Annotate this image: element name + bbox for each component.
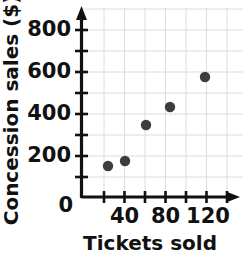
scatter-plot-figure: 800 600 400 200 0 40 80 120 Concession s… xyxy=(0,0,243,256)
data-point xyxy=(165,102,175,112)
y-axis-arrow-icon xyxy=(76,6,87,20)
data-point xyxy=(200,72,210,82)
y-tick-label-600: 600 xyxy=(27,59,71,83)
y-tick-label-400: 400 xyxy=(27,101,71,125)
x-tick-label-80: 80 xyxy=(151,204,180,228)
y-tick-label-200: 200 xyxy=(27,143,71,167)
x-axis-title: Tickets sold xyxy=(83,231,217,255)
origin-label: 0 xyxy=(58,193,73,217)
chart-canvas: 800 600 400 200 0 40 80 120 Concession s… xyxy=(0,0,243,256)
y-axis xyxy=(76,6,87,198)
data-point xyxy=(141,120,151,130)
y-axis-title: Concession sales ($) xyxy=(0,0,23,225)
data-point xyxy=(120,156,130,166)
x-tick-label-40: 40 xyxy=(110,204,139,228)
data-point xyxy=(103,161,113,171)
y-tick-label-800: 800 xyxy=(27,17,71,41)
x-tick-label-120: 120 xyxy=(186,204,230,228)
